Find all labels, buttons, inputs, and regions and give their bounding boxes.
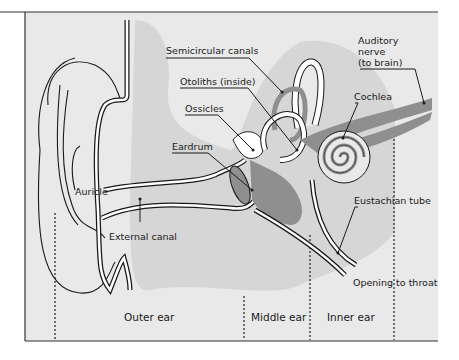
ear-anatomy-diagram: Semicircular canals Otoliths (inside) Os… (0, 0, 459, 360)
label-otoliths: Otoliths (inside) (180, 76, 256, 87)
label-semicircular-canals: Semicircular canals (166, 45, 258, 56)
label-ossicles: Ossicles (185, 103, 224, 114)
region-inner-ear: Inner ear (327, 311, 375, 323)
region-outer-ear: Outer ear (124, 311, 175, 323)
label-external-canal: External canal (109, 231, 177, 242)
label-eardrum: Eardrum (172, 141, 213, 152)
region-middle-ear: Middle ear (251, 311, 307, 323)
label-cochlea: Cochlea (354, 91, 392, 102)
label-auditory-nerve-line2: nerve (358, 46, 385, 57)
label-auditory-nerve-line3: (to brain) (358, 57, 402, 68)
label-auditory-nerve-line1: Auditory (358, 35, 399, 46)
label-opening-to-throat: Opening to throat (353, 277, 438, 288)
label-eustachian-tube: Eustachian tube (354, 195, 431, 206)
label-auricle: Auricle (75, 186, 108, 197)
